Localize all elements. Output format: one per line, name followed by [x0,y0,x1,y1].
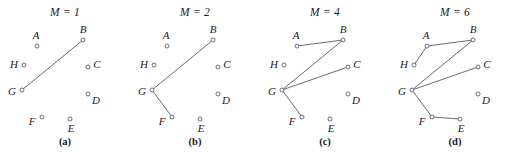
node-E [198,117,202,121]
panel-caption-a: (a) [0,136,130,147]
panel-c: M = 4ABCDEFGH(c) [260,0,390,155]
panel-b: M = 2ABCDEFGH(b) [130,0,260,155]
panel-caption-d: (d) [390,136,518,147]
node-G [150,88,154,92]
node-B [341,38,345,42]
node-F [170,115,174,119]
node-A [35,44,39,48]
node-G [410,88,414,92]
node-C [346,65,350,69]
edge-H-A [414,46,427,65]
graph-canvas-d [390,24,518,134]
node-label-D: D [222,95,230,106]
node-label-E: E [458,123,465,134]
node-C [476,65,480,69]
panel-caption-c: (c) [260,136,390,147]
node-label-D: D [352,95,360,106]
node-label-H: H [10,59,18,70]
edge-G-B [282,40,343,90]
panel-caption-b: (b) [130,136,260,147]
edge-G-F [282,90,302,117]
graph-area-c: ABCDEFGH [260,24,390,134]
node-label-B: B [470,24,477,35]
edge-G-B [152,40,213,90]
node-D [476,92,480,96]
node-label-G: G [138,86,146,97]
node-label-B: B [80,24,87,35]
node-A [165,44,169,48]
node-label-A: A [423,30,430,41]
node-A [295,44,299,48]
node-label-F: F [419,116,426,127]
node-label-H: H [140,59,148,70]
node-label-C: C [483,59,490,70]
graph-canvas-b [130,24,260,134]
graph-area-b: ABCDEFGH [130,24,260,134]
panel-title-c: M = 4 [260,6,390,18]
node-label-D: D [482,95,490,106]
panel-title-a: M = 1 [0,6,130,18]
node-label-C: C [223,59,230,70]
node-B [211,38,215,42]
node-label-F: F [159,116,166,127]
graph-canvas-c [260,24,390,134]
edge-G-F [412,90,432,117]
node-C [216,65,220,69]
graph-area-d: ABCDEFGH [390,24,518,134]
panel-d: M = 6ABCDEFGH(d) [390,0,518,155]
node-label-E: E [328,123,335,134]
node-label-H: H [400,59,408,70]
edge-G-F [152,90,172,117]
node-label-B: B [210,24,217,35]
node-label-B: B [340,24,347,35]
node-B [81,38,85,42]
panel-title-d: M = 6 [390,6,518,18]
panel-a: M = 1ABCDEFGH(a) [0,0,130,155]
node-label-H: H [270,59,278,70]
node-label-C: C [353,59,360,70]
node-label-C: C [93,59,100,70]
node-G [20,88,24,92]
node-E [458,117,462,121]
node-label-F: F [289,116,296,127]
node-D [86,92,90,96]
edge-G-C [282,67,348,90]
edge-F-E [432,117,460,119]
edge-G-B [412,40,473,90]
node-label-A: A [293,30,300,41]
graph-canvas-a [0,24,130,134]
node-H [22,63,26,67]
figure-container: M = 1ABCDEFGH(a)M = 2ABCDEFGH(b)M = 4ABC… [0,0,518,155]
node-D [346,92,350,96]
edge-G-B [22,40,83,90]
node-label-E: E [198,123,205,134]
node-label-A: A [33,30,40,41]
node-B [471,38,475,42]
node-label-D: D [92,95,100,106]
node-C [86,65,90,69]
node-F [300,115,304,119]
node-H [152,63,156,67]
node-D [216,92,220,96]
node-H [282,63,286,67]
node-label-G: G [268,86,276,97]
node-label-G: G [398,86,406,97]
node-label-F: F [29,116,36,127]
node-E [68,117,72,121]
node-label-A: A [163,30,170,41]
edge-G-C [412,67,478,90]
node-G [280,88,284,92]
node-F [430,115,434,119]
node-F [40,115,44,119]
node-label-E: E [68,123,75,134]
node-A [425,44,429,48]
panel-title-b: M = 2 [130,6,260,18]
node-H [412,63,416,67]
graph-area-a: ABCDEFGH [0,24,130,134]
node-E [328,117,332,121]
node-label-G: G [8,86,16,97]
